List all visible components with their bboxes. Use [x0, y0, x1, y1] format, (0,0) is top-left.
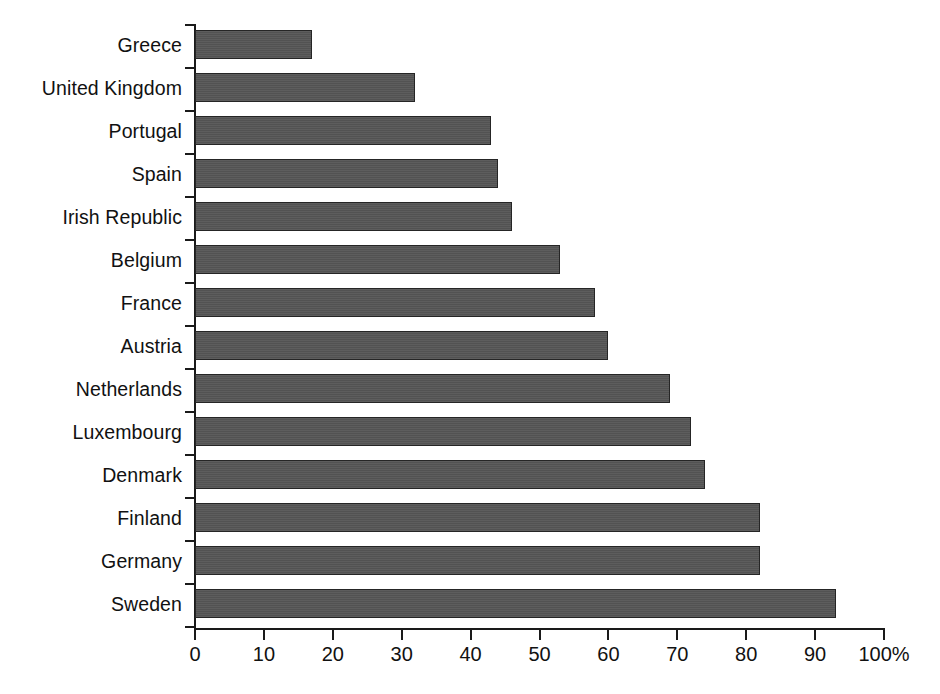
bar-row: Germany [0, 540, 940, 583]
x-axis-tick [332, 630, 334, 640]
bar-row: Luxembourg [0, 411, 940, 454]
x-axis-tick-label: 50 [528, 643, 550, 666]
y-axis-tick [185, 497, 195, 499]
y-axis-tick [185, 282, 195, 284]
bar-luxembourg [195, 417, 691, 446]
x-axis-tick [883, 630, 885, 640]
bar-row: Belgium [0, 239, 940, 282]
category-label-luxembourg: Luxembourg [0, 411, 182, 454]
bar-irish-republic [195, 202, 512, 231]
x-axis-tick [194, 630, 196, 640]
x-axis-tick [401, 630, 403, 640]
y-axis-tick [185, 110, 195, 112]
x-axis-tick-label: 10 [253, 643, 275, 666]
x-axis-tick-label: 0 [189, 643, 200, 666]
y-axis-tick [185, 626, 195, 628]
x-axis-tick-label: 100% [858, 643, 909, 666]
category-label-spain: Spain [0, 153, 182, 196]
figure-container: GreeceUnited KingdomPortugalSpainIrish R… [0, 0, 940, 694]
bar-row: Sweden [0, 583, 940, 626]
bar-row: Finland [0, 497, 940, 540]
x-axis-tick [263, 630, 265, 640]
bar-finland [195, 503, 760, 532]
bar-france [195, 288, 595, 317]
y-axis-tick [185, 454, 195, 456]
bar-row: France [0, 282, 940, 325]
category-label-irish-republic: Irish Republic [0, 196, 182, 239]
bar-row: United Kingdom [0, 67, 940, 110]
category-label-greece: Greece [0, 24, 182, 67]
x-axis-tick-label: 60 [597, 643, 619, 666]
bar-row: Portugal [0, 110, 940, 153]
y-axis-tick [185, 239, 195, 241]
x-axis-tick-label: 70 [666, 643, 688, 666]
x-axis-tick [814, 630, 816, 640]
category-label-sweden: Sweden [0, 583, 182, 626]
bar-greece [195, 30, 312, 59]
bar-row: Spain [0, 153, 940, 196]
x-axis-tick-label: 30 [391, 643, 413, 666]
bar-austria [195, 331, 608, 360]
category-label-denmark: Denmark [0, 454, 182, 497]
bar-row: Denmark [0, 454, 940, 497]
category-label-austria: Austria [0, 325, 182, 368]
bar-row: Netherlands [0, 368, 940, 411]
bar-belgium [195, 245, 560, 274]
x-axis-tick-label: 80 [735, 643, 757, 666]
y-axis-tick [185, 196, 195, 198]
bar-spain [195, 159, 498, 188]
category-label-germany: Germany [0, 540, 182, 583]
y-axis-tick [185, 583, 195, 585]
x-axis-tick [539, 630, 541, 640]
y-axis-tick [185, 411, 195, 413]
bar-row: Austria [0, 325, 940, 368]
category-label-belgium: Belgium [0, 239, 182, 282]
x-axis-tick-label: 40 [459, 643, 481, 666]
x-axis-tick-label: 90 [804, 643, 826, 666]
x-axis-tick [676, 630, 678, 640]
x-axis-tick-label: 20 [322, 643, 344, 666]
bar-row: Irish Republic [0, 196, 940, 239]
y-axis-tick [185, 67, 195, 69]
bar-united-kingdom [195, 73, 415, 102]
x-axis-tick [470, 630, 472, 640]
category-label-france: France [0, 282, 182, 325]
y-axis-tick [185, 540, 195, 542]
category-label-netherlands: Netherlands [0, 368, 182, 411]
category-label-finland: Finland [0, 497, 182, 540]
x-axis-tick [745, 630, 747, 640]
bar-portugal [195, 116, 491, 145]
y-axis-tick [185, 368, 195, 370]
category-label-united-kingdom: United Kingdom [0, 67, 182, 110]
category-label-portugal: Portugal [0, 110, 182, 153]
bar-germany [195, 546, 760, 575]
y-axis-tick [185, 24, 195, 26]
x-axis-tick [607, 630, 609, 640]
bar-netherlands [195, 374, 670, 403]
y-axis-tick [185, 153, 195, 155]
y-axis-tick [185, 325, 195, 327]
bar-denmark [195, 460, 705, 489]
bar-sweden [195, 589, 836, 618]
bar-chart-plot-area: GreeceUnited KingdomPortugalSpainIrish R… [0, 0, 940, 660]
bar-row: Greece [0, 24, 940, 67]
